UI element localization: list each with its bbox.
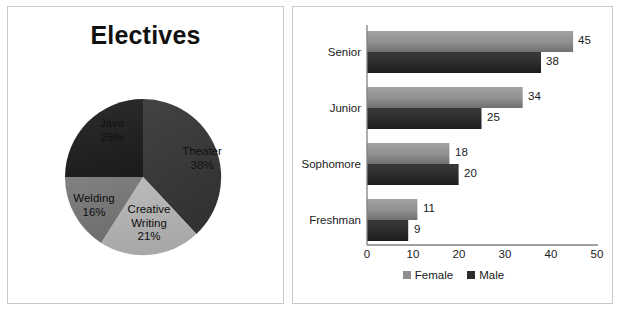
bar-value-senior-male: 38 [546,55,559,67]
bar-freshman-female [367,199,417,220]
bar-junior-male [367,108,482,129]
bar-value-junior-male: 25 [487,111,500,123]
x-tick-20: 20 [447,248,471,260]
screenshot-root: Electives [0,0,620,311]
legend-swatch-female-icon [403,271,411,279]
bar-category-junior: Junior [295,102,361,114]
bar-junior-female [367,87,523,108]
bar-category-senior: Senior [295,46,361,58]
bar-category-freshman: Freshman [295,214,361,226]
bar-freshman-male [367,220,408,241]
legend-swatch-male-icon [467,271,475,279]
pie-chart-panel: Electives [7,6,284,304]
bar-sophomore-male [367,164,459,185]
x-tick-40: 40 [539,248,563,260]
x-tick-0: 0 [355,248,379,260]
bar-chart-graphic: Senior Junior Sophomore Freshman 45 38 3… [293,7,614,305]
pie-slice-java [65,99,143,177]
bar-value-junior-female: 34 [528,90,541,102]
bar-chart-panel: Senior Junior Sophomore Freshman 45 38 3… [292,6,613,304]
legend-item-male[interactable]: Male [467,269,504,281]
legend-item-female[interactable]: Female [403,269,453,281]
x-tick-10: 10 [401,248,425,260]
bar-senior-female [367,31,573,52]
bar-value-sophomore-female: 18 [455,146,468,158]
bar-value-sophomore-male: 20 [464,167,477,179]
pie-chart-graphic [63,97,223,257]
x-tick-30: 30 [493,248,517,260]
bar-senior-male [367,52,541,73]
legend-label-female: Female [415,269,453,281]
bar-category-sophomore: Sophomore [295,158,361,170]
bar-sophomore-female [367,143,449,164]
x-tick-50: 50 [585,248,609,260]
bar-value-senior-female: 45 [578,34,591,46]
bar-chart-legend: Female Male [293,269,614,281]
bar-value-freshman-male: 9 [414,223,420,235]
bar-value-freshman-female: 11 [423,202,435,214]
pie-svg [63,97,223,257]
legend-label-male: Male [479,269,504,281]
pie-chart-title: Electives [8,21,283,50]
